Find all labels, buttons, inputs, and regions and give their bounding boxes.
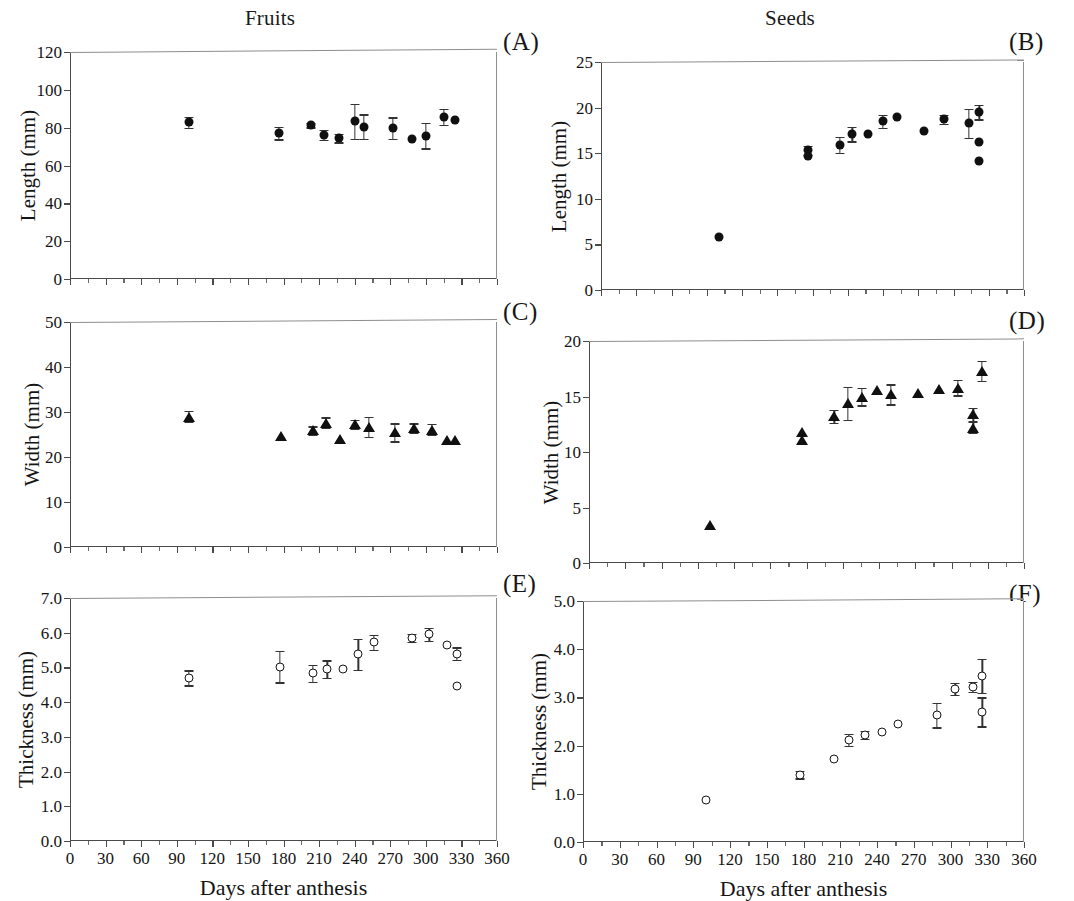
data-point — [951, 684, 960, 693]
error-cap-bottom — [858, 405, 867, 406]
x-tick-minor — [444, 841, 445, 845]
error-cap-bottom — [848, 141, 857, 142]
data-point — [274, 128, 283, 137]
x-tick-label: 60 — [133, 850, 150, 867]
x-tick-label: 300 — [938, 851, 964, 868]
x-tick-minor — [897, 563, 898, 567]
x-tick-minor — [675, 842, 676, 846]
panel-b: 0510152025Length (mm) — [601, 62, 1024, 290]
y-axis-title: Width (mm) — [20, 383, 45, 487]
error-cap-bottom — [844, 746, 853, 747]
error-cap-bottom — [977, 381, 986, 382]
panel-letter-e: (E) — [503, 570, 536, 598]
x-tick-minor — [159, 841, 160, 845]
data-point — [842, 398, 854, 408]
x-tick-minor — [760, 290, 761, 294]
column-title-seeds: Seeds — [540, 6, 1040, 31]
y-tick-label: 15 — [576, 145, 593, 162]
x-tick — [583, 842, 584, 848]
x-tick-minor — [479, 841, 480, 845]
y-tick-label: 2.0 — [41, 763, 62, 780]
x-tick — [952, 563, 953, 569]
y-tick — [64, 203, 70, 204]
y-tick — [577, 601, 583, 602]
y-tick-label: 0.0 — [554, 834, 575, 851]
y-axis-title: Thickness (mm) — [14, 651, 39, 788]
x-tick — [212, 841, 213, 847]
x-tick-minor — [724, 290, 725, 294]
plot-area-a: 020406080100120 — [70, 52, 497, 279]
y-axis-line — [589, 341, 590, 563]
y-tick-label: 1.0 — [554, 785, 575, 802]
plot-area-f: 0.01.02.03.04.05.00306090120150180210240… — [583, 601, 1024, 842]
x-tick-minor — [689, 290, 690, 294]
data-point — [334, 434, 346, 444]
error-cap-bottom — [309, 682, 318, 683]
x-tick-minor — [123, 841, 124, 845]
data-point — [952, 383, 964, 393]
y-tick-label: 6.0 — [41, 624, 62, 641]
x-tick-minor — [266, 279, 267, 283]
error-cap-bottom — [953, 395, 962, 396]
data-point — [349, 419, 361, 429]
y-tick-label: 30 — [45, 404, 62, 421]
y-tick — [577, 794, 583, 795]
x-tick — [106, 279, 107, 285]
y-tick — [64, 90, 70, 91]
y-tick-label: 5 — [585, 236, 594, 253]
y-tick-label: 20 — [45, 233, 62, 250]
y-tick — [595, 244, 601, 245]
error-cap-bottom — [940, 124, 949, 125]
panel-letter-d: (D) — [1009, 307, 1045, 335]
x-tick — [319, 547, 320, 553]
plot-area-d: 05101520 — [589, 341, 1024, 563]
x-tick-label: 300 — [413, 850, 439, 867]
x-tick — [813, 290, 814, 296]
y-tick — [577, 649, 583, 650]
y-tick — [64, 702, 70, 703]
x-tick — [212, 279, 213, 285]
y-tick-label: 60 — [45, 157, 62, 174]
x-tick-label: 270 — [901, 851, 927, 868]
error-cap-bottom — [388, 139, 397, 140]
x-tick-minor — [337, 841, 338, 845]
data-point — [389, 427, 401, 437]
error-cap-top — [953, 380, 962, 381]
x-tick — [426, 547, 427, 553]
data-point — [449, 435, 461, 445]
data-point — [893, 719, 902, 728]
x-tick — [840, 842, 841, 848]
x-tick-label: 30 — [97, 850, 114, 867]
data-point — [940, 115, 949, 124]
data-point — [964, 119, 973, 128]
x-tick-minor — [895, 842, 896, 846]
x-tick — [70, 547, 71, 553]
data-point — [803, 151, 812, 160]
x-tick — [284, 279, 285, 285]
plot-area-b: 0510152025 — [601, 62, 1024, 290]
x-tick-minor — [195, 547, 196, 551]
panel-c: 01020304050Width (mm) — [70, 322, 497, 547]
data-point — [452, 681, 461, 690]
x-tick-label: 150 — [235, 850, 261, 867]
error-cap-bottom — [364, 437, 373, 438]
data-point — [975, 157, 984, 166]
error-cap-bottom — [452, 660, 461, 661]
x-tick-minor — [830, 290, 831, 294]
error-cap-top — [978, 659, 987, 660]
x-tick-minor — [785, 842, 786, 846]
error-cap-bottom — [360, 139, 369, 140]
plot-top-rule — [601, 59, 1024, 63]
x-tick — [693, 842, 694, 848]
error-cap-top — [964, 109, 973, 110]
data-point — [828, 411, 840, 421]
data-point — [426, 425, 438, 435]
data-point — [335, 134, 344, 143]
figure-root: Fruits Seeds (A) (B) (C) (D) (E) (F) 020… — [0, 0, 1074, 901]
y-tick — [595, 199, 601, 200]
data-point — [933, 384, 945, 394]
x-tick-minor — [88, 547, 89, 551]
data-point — [848, 130, 857, 139]
data-point — [885, 389, 897, 399]
error-cap-top — [843, 387, 852, 388]
